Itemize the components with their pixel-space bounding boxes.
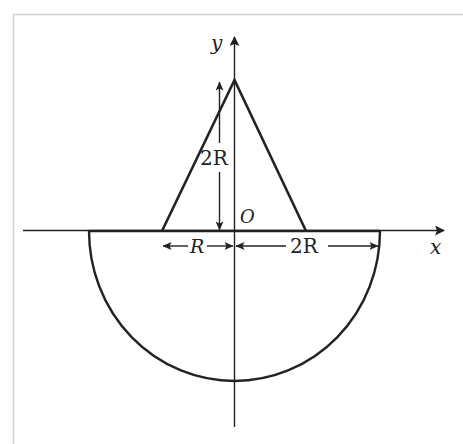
height-dimension: 2R — [200, 82, 229, 230]
height-dimension-label: 2R — [200, 146, 229, 170]
origin-label: O — [240, 206, 255, 227]
half-base-dimension-label: R — [189, 235, 204, 257]
half-base-dimension: R — [163, 235, 233, 257]
figure-frame — [14, 15, 463, 444]
radius-dimension-label: 2R — [290, 234, 319, 258]
y-axis-label: y — [210, 31, 223, 55]
radius-dimension: 2R — [236, 234, 378, 258]
x-axis-label: x — [430, 235, 441, 259]
diagram-canvas: y x O 2R R 2R — [0, 0, 463, 444]
